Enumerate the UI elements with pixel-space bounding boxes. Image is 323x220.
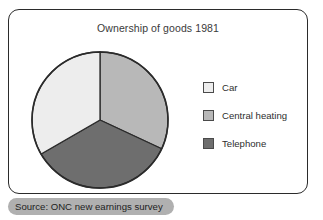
legend-item-central-heating[interactable]: Central heating	[203, 108, 313, 123]
source-caption-pill: Source: ONC new earnings survey	[8, 198, 174, 215]
chart-card: Ownership of goods 1981 Car Central heat…	[8, 9, 308, 194]
chart-figure: Ownership of goods 1981 Car Central heat…	[0, 0, 323, 220]
chart-legend: Car Central heating Telephone	[203, 80, 313, 151]
pie-chart	[27, 47, 173, 193]
source-caption-text: Source: ONC new earnings survey	[15, 198, 163, 215]
legend-swatch-telephone	[203, 138, 214, 149]
legend-item-telephone[interactable]: Telephone	[203, 136, 313, 151]
legend-label-telephone: Telephone	[222, 138, 266, 149]
legend-item-car[interactable]: Car	[203, 80, 313, 95]
pie-chart-svg	[27, 47, 173, 193]
legend-swatch-car	[203, 82, 214, 93]
legend-label-central-heating: Central heating	[222, 110, 287, 121]
legend-swatch-central-heating	[203, 110, 214, 121]
page-title: Ownership of goods 1981	[9, 22, 307, 34]
legend-label-car: Car	[222, 82, 237, 93]
